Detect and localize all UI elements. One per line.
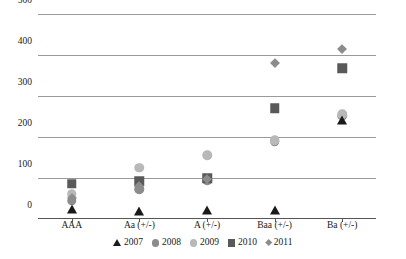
y-tick-label-500: 500 [0, 0, 32, 5]
data-point-2010-Baa [270, 104, 280, 114]
x-tick-label-4: Ba (+/-) [327, 221, 357, 231]
legend-label-2008: 2008 [162, 238, 181, 248]
chart-legend: 20072008200920102011 [0, 238, 406, 248]
gridline-300 [38, 96, 376, 97]
data-point-2009-Aa [135, 163, 145, 173]
legend-label-2010: 2010 [238, 238, 257, 248]
legend-item-2009[interactable]: 2009 [190, 238, 219, 248]
x-tick-label-2: A (+/-) [194, 221, 220, 231]
gridline-500 [38, 14, 376, 15]
data-point-2007-AAA [67, 204, 77, 213]
gridline-200 [38, 137, 376, 138]
legend-item-2007[interactable]: 2007 [113, 238, 143, 248]
x-tick-label-3: Baa (+/-) [257, 221, 292, 231]
data-point-2011-Ba [337, 44, 347, 54]
legend-item-2008[interactable]: 2008 [152, 238, 181, 248]
data-point-2007-Aa [134, 206, 144, 215]
x-axis-labels: AAAAa (+/-)A (+/-)Baa (+/-)Ba (+/-) [38, 221, 376, 235]
legend-item-2010[interactable]: 2010 [228, 238, 257, 248]
scatter-chart: 0100200300400500 AAAAa (+/-)A (+/-)Baa (… [0, 0, 406, 259]
legend-label-2009: 2009 [200, 238, 219, 248]
data-point-2010-AAA [67, 179, 77, 189]
y-tick-label-300: 300 [0, 77, 32, 87]
x-tick-label-1: Aa (+/-) [124, 221, 155, 231]
x-tick-label-0: AAA [62, 221, 83, 231]
y-axis-labels: 0100200300400500 [0, 0, 34, 205]
data-point-2007-Baa [270, 205, 280, 214]
y-tick-label-100: 100 [0, 159, 32, 169]
legend-marker-triangle-icon [113, 239, 121, 246]
legend-marker-square-icon [228, 239, 236, 247]
data-point-2010-Ba [337, 63, 347, 73]
y-tick-label-200: 200 [0, 118, 32, 128]
data-point-2007-Ba [337, 115, 347, 124]
data-point-2009-Baa [270, 136, 280, 146]
data-point-2009-A [202, 151, 212, 161]
legend-marker-circle-icon [152, 239, 160, 247]
plot-area [38, 14, 376, 219]
data-point-2011-Baa [270, 58, 280, 68]
y-tick-label-400: 400 [0, 36, 32, 46]
gridline-400 [38, 55, 376, 56]
legend-label-2007: 2007 [124, 238, 143, 248]
legend-label-2011: 2011 [274, 238, 293, 248]
legend-marker-circle-icon [190, 239, 198, 247]
legend-marker-diamond-icon [265, 239, 273, 247]
legend-item-2011[interactable]: 2011 [266, 238, 293, 248]
data-point-2007-A [202, 206, 212, 215]
y-tick-label-0: 0 [0, 200, 32, 210]
